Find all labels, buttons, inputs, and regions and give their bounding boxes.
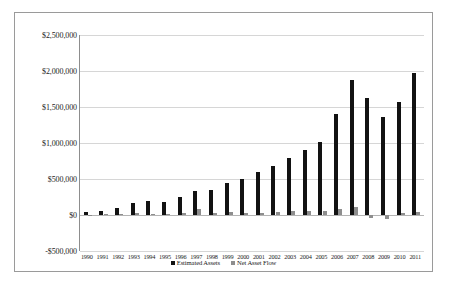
bar-net-asset-flow-2002 bbox=[276, 212, 280, 215]
legend-label: Net Asset Flow bbox=[237, 259, 276, 266]
chart-plot-wrapper: $2,500,000$2,000,000$1,500,000$1,000,000… bbox=[15, 13, 432, 271]
bar-estimated-assets-1999 bbox=[225, 183, 229, 215]
bar-estimated-assets-2008 bbox=[365, 98, 369, 215]
bar-net-asset-flow-1999 bbox=[229, 212, 233, 215]
bar-estimated-assets-2000 bbox=[240, 179, 244, 215]
bar-net-asset-flow-2003 bbox=[291, 211, 295, 215]
y-axis-tick-label: $1,000,000 bbox=[42, 139, 77, 148]
y-axis-tick-label: $1,500,000 bbox=[42, 103, 77, 112]
y-axis-tick-label: $2,500,000 bbox=[42, 31, 77, 40]
y-axis-tick-label: $0 bbox=[69, 211, 77, 220]
bar-series-container bbox=[80, 35, 424, 251]
legend-label: Estimated Assets bbox=[177, 259, 220, 266]
bar-net-asset-flow-2001 bbox=[260, 213, 264, 215]
bar-net-asset-flow-1994 bbox=[151, 214, 155, 215]
y-axis-tick-label: $500,000 bbox=[48, 175, 77, 184]
legend-item-net-asset-flow[interactable]: Net Asset Flow bbox=[231, 259, 276, 266]
y-axis: $2,500,000$2,000,000$1,500,000$1,000,000… bbox=[15, 13, 77, 271]
bar-net-asset-flow-1993 bbox=[135, 213, 139, 215]
bar-net-asset-flow-1997 bbox=[197, 209, 201, 215]
y-axis-tick-label: -$500,000 bbox=[45, 247, 77, 256]
chart-frame: $2,500,000$2,000,000$1,500,000$1,000,000… bbox=[14, 12, 433, 272]
bar-estimated-assets-2001 bbox=[256, 172, 260, 215]
chart-legend: Estimated AssetsNet Asset Flow bbox=[15, 259, 432, 266]
bar-estimated-assets-2004 bbox=[303, 150, 307, 215]
bar-estimated-assets-2003 bbox=[287, 158, 291, 215]
bar-net-asset-flow-2006 bbox=[338, 209, 342, 215]
bar-estimated-assets-1996 bbox=[178, 197, 182, 215]
bar-estimated-assets-2005 bbox=[318, 142, 322, 215]
bar-net-asset-flow-1996 bbox=[182, 213, 186, 215]
gridline bbox=[80, 251, 424, 252]
legend-swatch-icon bbox=[231, 261, 235, 265]
bar-estimated-assets-2010 bbox=[397, 102, 401, 215]
bar-net-asset-flow-1995 bbox=[166, 214, 170, 215]
legend-swatch-icon bbox=[171, 261, 175, 265]
bar-net-asset-flow-2009 bbox=[385, 215, 389, 219]
bar-net-asset-flow-2011 bbox=[416, 212, 420, 215]
bar-estimated-assets-2006 bbox=[334, 114, 338, 215]
bar-net-asset-flow-1991 bbox=[104, 214, 108, 215]
bar-estimated-assets-2002 bbox=[271, 166, 275, 215]
bar-net-asset-flow-2000 bbox=[244, 213, 248, 215]
bar-net-asset-flow-2010 bbox=[401, 213, 405, 215]
plot-area bbox=[79, 35, 424, 251]
y-axis-tick-label: $2,000,000 bbox=[42, 67, 77, 76]
bar-net-asset-flow-1998 bbox=[213, 213, 217, 215]
bar-estimated-assets-2007 bbox=[350, 80, 354, 215]
bar-net-asset-flow-2005 bbox=[323, 211, 327, 215]
bar-net-asset-flow-1992 bbox=[119, 214, 123, 215]
bar-net-asset-flow-1990 bbox=[88, 215, 92, 216]
legend-item-estimated-assets[interactable]: Estimated Assets bbox=[171, 259, 220, 266]
bar-net-asset-flow-2008 bbox=[369, 215, 373, 218]
bar-net-asset-flow-2004 bbox=[307, 211, 311, 215]
bar-estimated-assets-1998 bbox=[209, 190, 213, 215]
bar-net-asset-flow-2007 bbox=[354, 207, 358, 215]
bar-estimated-assets-2009 bbox=[381, 117, 385, 215]
bar-estimated-assets-2011 bbox=[412, 73, 416, 215]
